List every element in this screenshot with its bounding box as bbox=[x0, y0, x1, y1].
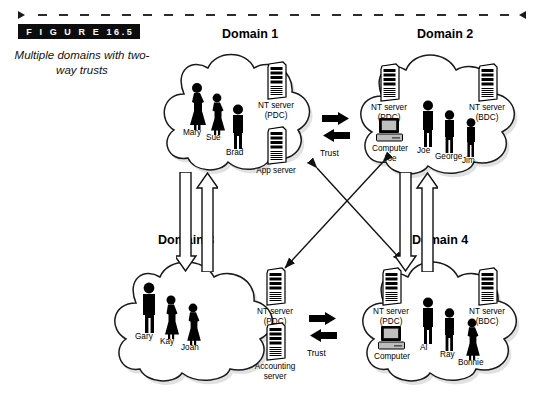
person-name-brad: Brad bbox=[226, 148, 243, 157]
domain-2-nt-server-pdc: NT server (PDC) bbox=[364, 62, 414, 123]
person-al: Al bbox=[418, 297, 438, 349]
person-kay: Kay bbox=[161, 295, 181, 343]
person-name-al: Al bbox=[420, 343, 427, 352]
person-name-joan: Joan bbox=[181, 343, 199, 352]
domain-3-nt-server-pdc-label-1: NT server bbox=[248, 307, 302, 316]
domain-3-accounting-server-label-2: server bbox=[248, 372, 302, 381]
rule-dots bbox=[32, 14, 510, 16]
domain-1-nt-server-pdc: NT server (PDC) bbox=[252, 60, 300, 121]
trust-arrows-right bbox=[396, 172, 438, 276]
server-tower-icon bbox=[264, 266, 286, 306]
figure-page: F I G U R E 16.5 Multiple domains with t… bbox=[0, 0, 540, 419]
person-ray: Ray bbox=[440, 308, 459, 356]
person-george: George bbox=[440, 110, 459, 158]
domain-2-computer-label-2: Joe bbox=[366, 154, 414, 163]
person-joe: Joe bbox=[418, 100, 438, 152]
server-tower-icon bbox=[265, 125, 287, 165]
top-rule-decoration bbox=[18, 11, 526, 19]
person-name-george: George bbox=[435, 152, 462, 161]
desktop-computer-icon bbox=[377, 325, 407, 351]
person-brad: Brad bbox=[228, 104, 248, 154]
figure-caption: Multiple domains with two-way trusts bbox=[12, 48, 152, 78]
arrow-left-icon bbox=[310, 329, 337, 342]
person-bonnie: Bonnie bbox=[462, 318, 482, 364]
arrow-right-icon bbox=[309, 312, 336, 325]
domain-3-nt-server-pdc: NT server (PDC) bbox=[248, 266, 302, 327]
person-joan: Joan bbox=[183, 303, 203, 349]
person-gary: Gary bbox=[138, 282, 160, 338]
person-name-ray: Ray bbox=[440, 350, 455, 359]
person-name-kay: Kay bbox=[160, 337, 174, 346]
person-name-sue: Sue bbox=[206, 133, 221, 142]
domain-3-accounting-server: Accounting server bbox=[248, 321, 302, 382]
domain-2-computer-label-1: Computer bbox=[366, 144, 414, 153]
domain-2-nt-server-bdc: NT server (BDC) bbox=[462, 62, 512, 123]
trust-arrows-top bbox=[320, 112, 352, 150]
domain-1-nt-server-pdc-label-2: (PDC) bbox=[252, 111, 300, 120]
person-sue: Sue bbox=[207, 93, 227, 139]
rule-right-triangle-icon bbox=[519, 11, 526, 19]
arrow-domain1-domain4 bbox=[317, 168, 403, 262]
domain-title-1: Domain 1 bbox=[222, 27, 278, 41]
domain-4-computer: Computer bbox=[368, 325, 416, 361]
person-jim: Jim bbox=[462, 118, 480, 162]
domain-2-computer-joe: Computer Joe bbox=[366, 117, 414, 164]
server-tower-icon bbox=[378, 62, 400, 102]
trust-arrows-bottom bbox=[307, 312, 339, 350]
arrow-left-icon bbox=[323, 129, 350, 142]
person-mary: Mary bbox=[186, 82, 208, 134]
arrow-up-icon bbox=[417, 173, 438, 272]
person-name-mary: Mary bbox=[183, 128, 201, 137]
domain-2-nt-server-bdc-label-1: NT server bbox=[462, 103, 512, 112]
server-tower-icon bbox=[476, 62, 498, 102]
person-name-bonnie: Bonnie bbox=[458, 358, 484, 367]
person-name-gary: Gary bbox=[135, 332, 153, 341]
person-name-joe: Joe bbox=[417, 146, 430, 155]
desktop-computer-icon bbox=[375, 117, 405, 143]
server-tower-icon bbox=[264, 321, 286, 361]
trust-arrows-left bbox=[176, 172, 218, 276]
arrow-right-icon bbox=[322, 112, 349, 125]
trust-label-top: Trust bbox=[320, 148, 339, 158]
domain-4-computer-label: Computer bbox=[368, 352, 416, 361]
arrow-down-icon bbox=[396, 172, 416, 271]
domain-1-nt-server-pdc-label-1: NT server bbox=[252, 101, 300, 110]
trust-label-bottom: Trust bbox=[307, 348, 326, 358]
arrow-up-icon bbox=[197, 173, 218, 272]
rule-left-triangle-icon bbox=[18, 11, 25, 19]
domain-4-nt-server-pdc-label-1: NT server bbox=[366, 307, 416, 316]
server-tower-icon bbox=[265, 60, 287, 100]
server-tower-icon bbox=[476, 266, 498, 306]
domain-3-accounting-server-label-1: Accounting bbox=[248, 362, 302, 371]
domain-4-nt-server-bdc-label-1: NT server bbox=[462, 307, 512, 316]
figure-number-banner: F I G U R E 16.5 bbox=[18, 24, 140, 39]
domain-1-app-server: App server bbox=[252, 125, 300, 175]
domain-title-2: Domain 2 bbox=[417, 27, 473, 41]
person-name-jim: Jim bbox=[462, 156, 475, 165]
arrow-down-icon bbox=[176, 172, 196, 271]
domain-1-app-server-label: App server bbox=[252, 166, 300, 175]
domain-2-nt-server-pdc-label-1: NT server bbox=[364, 103, 414, 112]
